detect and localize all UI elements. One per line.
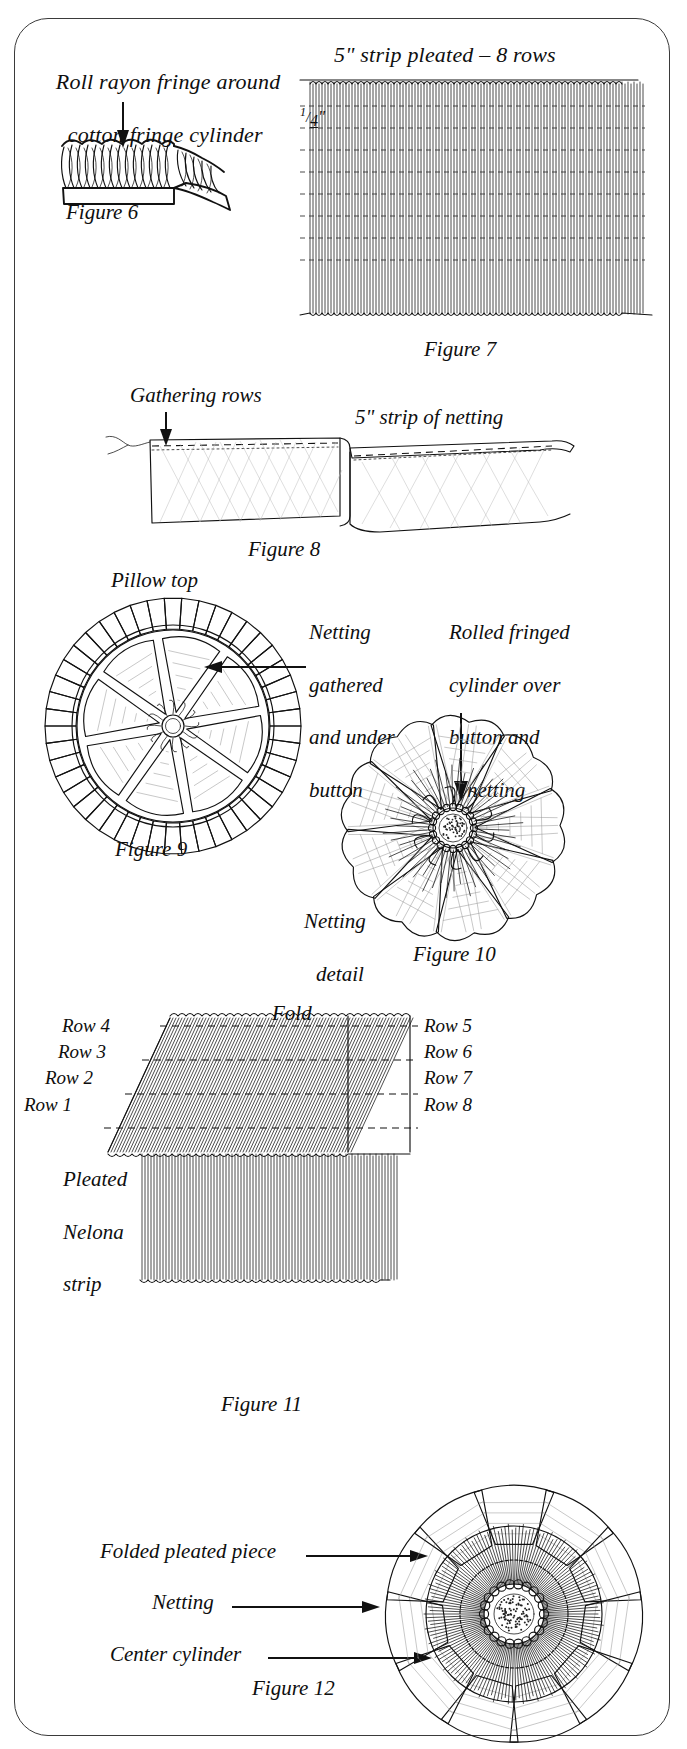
figure-6-label: Figure 6: [66, 200, 138, 225]
figure-8-label: Figure 8: [248, 537, 320, 562]
figure-7-drawing: [300, 70, 652, 320]
figure-8-arrow: [160, 412, 172, 446]
figure-9-annotation-top: Pillow top: [111, 567, 198, 593]
figure-10-detail-line2: detail: [316, 961, 364, 987]
figure-9-callout-arrow: [198, 655, 308, 679]
figure-12-fine-rays: [424, 1524, 603, 1704]
document-page: Roll rayon fringe around cotton fringe c…: [0, 0, 687, 1749]
figure-11-label: Figure 11: [221, 1392, 302, 1417]
figure-10-label: Figure 10: [413, 942, 496, 967]
figure-9-annot-line1: Netting: [309, 620, 371, 644]
figure-11-pleated-strip: [142, 1154, 397, 1280]
figure-10-detail-line1: Netting: [304, 909, 366, 933]
figure-8-drawing: [100, 412, 580, 540]
figure-7-label: Figure 7: [424, 337, 496, 362]
figure-9-label: Figure 9: [115, 837, 187, 862]
figure-7-caption: 5" strip pleated – 8 rows: [334, 42, 556, 69]
figure-12-drawing: [364, 1474, 654, 1742]
figure-6-caption-line1: Roll rayon fringe around: [56, 69, 281, 94]
figure-10-gather-strokes: [383, 758, 523, 897]
figure-12-label: Figure 12: [252, 1676, 335, 1701]
figure-7-pleat-lines: [310, 82, 643, 314]
figure-9-drawing: [42, 595, 304, 857]
figure-6-fringe-loops: [62, 145, 170, 188]
figure-11-diagonal-pleats: [108, 1018, 413, 1152]
figure-10-detail-annotation: Netting detail: [283, 882, 366, 1013]
figure-10-annot-line1: Rolled fringed: [449, 620, 570, 644]
figure-9-center-gathers: [147, 700, 199, 752]
figure-12-arrow-netting: [232, 1601, 380, 1613]
figure-9-annot-line2: gathered: [309, 673, 383, 697]
figure-10-annot-line2: cylinder over: [449, 673, 560, 697]
figure-11-drawing: [80, 1008, 470, 1296]
figure-8-annotation-left: Gathering rows: [130, 382, 262, 408]
figure-11-row-left-3: Row 1: [24, 1094, 72, 1116]
figure-6-drawing: [50, 100, 270, 210]
figure-10-petals: [341, 715, 564, 940]
